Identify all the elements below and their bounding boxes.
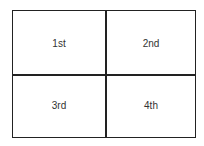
horizontal-divider [13, 74, 195, 76]
cell-third: 3rd [13, 100, 105, 111]
cell-first: 1st [13, 38, 105, 49]
cell-second: 2nd [105, 38, 197, 49]
quadrant-grid: 1st 2nd 3rd 4th [12, 10, 196, 138]
cell-fourth: 4th [105, 100, 197, 111]
